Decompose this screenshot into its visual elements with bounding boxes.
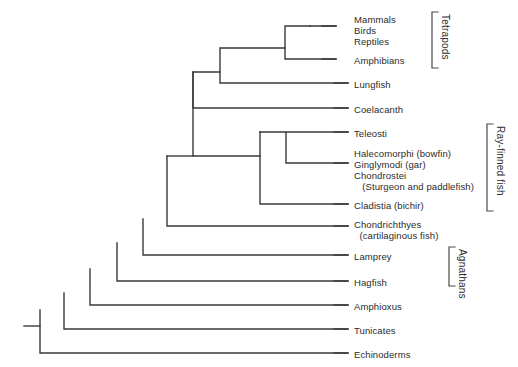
clade-label-agnathans: Agnathans (457, 249, 468, 299)
branch-node-tetra-lf (220, 48, 348, 83)
taxon-label-chondrostei: Chondrostei (354, 170, 406, 181)
branch-node-teleo (260, 132, 348, 163)
branch-node-sarco-top (193, 72, 348, 108)
branch-node-lamprey (143, 219, 348, 255)
taxon-label-amphibians: Amphibians (354, 55, 405, 66)
taxon-label-amphioxus: Amphioxus (354, 301, 402, 312)
taxon-label-hagfish: Hagfish (354, 277, 387, 288)
branch-node-root (40, 310, 348, 353)
clade-label-ray-finned-fish: Ray-finned fish (495, 126, 506, 196)
bracket-tetrapods (432, 12, 438, 68)
taxon-label-chondrostei2: (Sturgeon and paddlefish) (354, 181, 474, 192)
taxon-label-ginglymodi: Ginglymodi (gar) (354, 159, 426, 170)
branch-node-actino (260, 132, 348, 204)
taxon-label-reptiles: Reptiles (354, 36, 389, 47)
bracket-ray-finned-fish (487, 124, 493, 211)
taxon-label-chondrichthyes2: (cartilaginous fish) (354, 230, 438, 241)
taxon-label-tunicates: Tunicates (354, 325, 396, 336)
taxon-label-cladistia: Cladistia (bichir) (354, 200, 424, 211)
taxon-label-echinoderms: Echinoderms (354, 349, 411, 360)
taxon-label-chondrichthyes: Chondrichthyes (354, 219, 421, 230)
phylogenetic-tree-diagram: MammalsBirdsReptilesAmphibiansLungfishCo… (0, 0, 518, 367)
branch-node-sarco (193, 72, 260, 156)
bracket-agnathans (449, 247, 455, 286)
taxon-label-lungfish: Lungfish (354, 79, 391, 90)
branch-node-tetra (285, 26, 336, 59)
taxon-label-halecomorphi: Halecomorphi (bowfin) (354, 148, 451, 159)
taxon-label-coelacanth: Coelacanth (354, 104, 403, 115)
taxon-label-mammals: Mammals (354, 14, 396, 25)
branch-lines (24, 26, 348, 353)
taxon-label-lamprey: Lamprey (354, 251, 392, 262)
taxon-label-teleosti: Teleosti (354, 128, 387, 139)
branch-node-tunicates (64, 293, 348, 329)
branch-node-amphioxus (90, 269, 348, 305)
branch-node-chondr (167, 156, 348, 226)
clade-label-tetrapods: Tetrapods (440, 14, 451, 60)
branch-node-hagfish (117, 243, 348, 281)
taxon-label-birds: Birds (354, 25, 376, 36)
